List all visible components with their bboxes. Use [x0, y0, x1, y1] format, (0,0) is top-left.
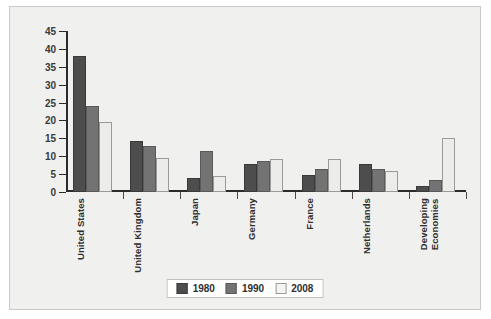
- y-axis-tick-mark: [59, 138, 66, 139]
- category-axis-tick: [295, 192, 296, 199]
- bar: [213, 176, 226, 192]
- y-axis-tick-label: 40: [45, 43, 56, 54]
- bar: [73, 56, 86, 192]
- y-axis-tick-mark: [59, 156, 66, 157]
- legend-swatch-icon: [177, 283, 188, 294]
- y-axis-tick-label: 20: [45, 115, 56, 126]
- y-axis-tick-label: 10: [45, 151, 56, 162]
- bar: [130, 141, 143, 192]
- y-axis-tick-label: 25: [45, 97, 56, 108]
- legend-label: 2008: [291, 283, 313, 294]
- bar: [359, 164, 372, 192]
- category-label: France: [305, 198, 316, 230]
- bar: [315, 169, 328, 192]
- legend-item[interactable]: 2008: [275, 283, 313, 294]
- bar: [156, 158, 169, 192]
- bar-group: [66, 31, 123, 192]
- bar: [416, 186, 429, 192]
- category-label: Netherlands: [362, 198, 373, 254]
- category-label: Japan: [190, 198, 201, 226]
- legend-item[interactable]: 1980: [177, 283, 215, 294]
- category-label: Germany: [247, 198, 258, 240]
- bar-group-bars: [237, 31, 301, 192]
- bar: [244, 164, 257, 192]
- bar-group: [352, 31, 409, 192]
- y-axis-tick-mark: [59, 103, 66, 104]
- category-axis-tick: [352, 192, 353, 199]
- bar-group-bars: [295, 31, 359, 192]
- bar-group-bars: [123, 31, 187, 192]
- legend-label: 1990: [242, 283, 264, 294]
- bar: [302, 175, 315, 192]
- category-axis-tick: [237, 192, 238, 199]
- legend-swatch-icon: [226, 283, 237, 294]
- y-axis-tick-label: 5: [50, 169, 56, 180]
- y-axis-tick-label: 0: [50, 187, 56, 198]
- bar-group-bars: [409, 31, 473, 192]
- category-axis-tick: [409, 192, 410, 199]
- chart-legend: 198019902008: [167, 279, 324, 298]
- category-axis-tick: [180, 192, 181, 199]
- y-axis-tick-mark: [59, 67, 66, 68]
- bar: [86, 106, 99, 192]
- bar: [187, 178, 200, 192]
- bar-group: [295, 31, 352, 192]
- bar-group-bars: [180, 31, 244, 192]
- category-axis-tick: [123, 192, 124, 199]
- bar: [200, 151, 213, 192]
- bar-group: [180, 31, 237, 192]
- bar: [257, 161, 270, 192]
- plot-area: 051015202530354045: [66, 31, 466, 192]
- y-axis-tick-label: 45: [45, 26, 56, 37]
- y-axis-tick-label: 30: [45, 79, 56, 90]
- bar-group: [123, 31, 180, 192]
- bar: [143, 146, 156, 192]
- bar: [372, 169, 385, 192]
- bar-group: [237, 31, 294, 192]
- y-axis-tick-mark: [59, 85, 66, 86]
- bar-group: [409, 31, 466, 192]
- bar: [328, 159, 341, 192]
- legend-swatch-icon: [275, 283, 286, 294]
- y-axis-tick-mark: [59, 31, 66, 32]
- legend-item[interactable]: 1990: [226, 283, 264, 294]
- y-axis-tick-mark: [59, 174, 66, 175]
- category-label: United States: [76, 198, 87, 260]
- bar-group-bars: [66, 31, 130, 192]
- category-label: United Kingdom: [133, 198, 144, 273]
- bar: [442, 138, 455, 192]
- bar: [385, 171, 398, 192]
- category-label: Developing Economies: [419, 198, 440, 250]
- y-axis-tick-label: 35: [45, 61, 56, 72]
- y-axis-tick-mark: [59, 192, 66, 193]
- legend-label: 1980: [193, 283, 215, 294]
- y-axis-tick-mark: [59, 49, 66, 50]
- y-axis-tick-mark: [59, 120, 66, 121]
- category-axis-tick: [466, 192, 467, 199]
- bar: [99, 122, 112, 192]
- y-axis-tick-label: 15: [45, 133, 56, 144]
- chart-figure: 051015202530354045 United StatesUnited K…: [9, 6, 481, 310]
- bar: [429, 180, 442, 192]
- bar-group-bars: [352, 31, 416, 192]
- bar: [270, 159, 283, 192]
